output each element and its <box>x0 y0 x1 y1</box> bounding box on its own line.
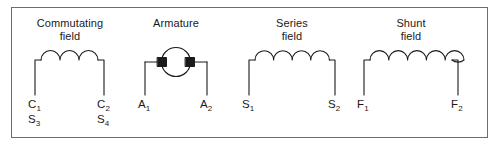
terminal-label-s3-sub: 3 <box>36 119 41 128</box>
terminal-label-a2-sub: 2 <box>208 104 213 113</box>
commutating-field-coil <box>41 51 98 60</box>
terminal-label-s2: S2 <box>328 98 340 110</box>
shunt-field-left-lead <box>364 60 370 95</box>
commutating-field-symbol <box>35 51 104 95</box>
terminal-label-s3: S3 <box>28 113 40 125</box>
series-field-caption: Series field <box>254 17 330 42</box>
terminal-label-c2-sub: 2 <box>105 104 110 113</box>
terminal-label-s2-text: S <box>328 98 336 110</box>
shunt-field-coil <box>370 51 464 63</box>
series-field-coil <box>255 51 329 60</box>
terminal-label-a1: A1 <box>138 98 150 110</box>
series-field-left-lead <box>249 60 255 95</box>
terminal-label-a1-sub: 1 <box>146 104 151 113</box>
terminal-label-c2: C2 <box>97 98 110 110</box>
commutating-field-right-lead <box>98 60 104 95</box>
terminal-label-c1: C1 <box>28 98 41 110</box>
terminal-label-s1-text: S <box>242 98 250 110</box>
terminal-label-c1-sub: 1 <box>36 104 41 113</box>
series-field-symbol <box>249 51 335 95</box>
armature-caption: Armature <box>138 17 214 30</box>
terminal-label-s3-text: S <box>28 113 36 125</box>
shunt-field-right-lead <box>452 60 458 95</box>
terminal-label-a2-text: A <box>200 98 208 110</box>
commutating-field-caption: Commutating field <box>24 17 116 42</box>
terminal-label-s4-sub: 4 <box>105 119 110 128</box>
terminal-label-f2: F2 <box>451 98 463 110</box>
terminal-label-f1-sub: 1 <box>364 104 369 113</box>
armature-brush-right <box>186 58 195 67</box>
terminal-label-s2-sub: 2 <box>336 104 341 113</box>
terminal-label-f2-sub: 2 <box>458 104 463 113</box>
armature-brush-left <box>158 58 167 67</box>
shunt-field-symbol <box>364 51 464 95</box>
terminal-label-a1-text: A <box>138 98 146 110</box>
terminal-label-s1-sub: 1 <box>250 104 255 113</box>
terminal-label-s4-text: S <box>97 113 105 125</box>
series-field-right-lead <box>329 60 335 95</box>
terminal-label-s1: S1 <box>242 98 254 110</box>
terminal-label-s4: S4 <box>97 113 109 125</box>
commutating-field-left-lead <box>35 60 41 95</box>
terminal-label-a2: A2 <box>200 98 212 110</box>
terminal-label-f1: F1 <box>357 98 369 110</box>
armature-symbol <box>145 48 207 96</box>
shunt-field-caption: Shunt field <box>373 17 449 42</box>
